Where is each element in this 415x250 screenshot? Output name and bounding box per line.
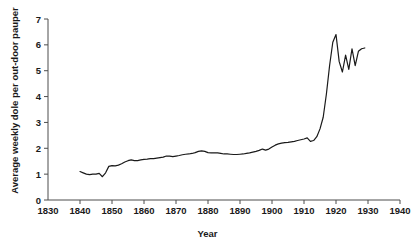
x-tick-label: 1860 (133, 205, 154, 216)
x-tick-label: 1880 (197, 205, 218, 216)
y-tick-label: 0 (36, 195, 41, 206)
y-tick-label: 6 (36, 39, 41, 50)
y-tick-group: 01234567 (36, 14, 48, 206)
x-tick-label: 1850 (101, 205, 122, 216)
x-tick-label: 1890 (229, 205, 250, 216)
axes (48, 19, 400, 200)
x-tick-label: 1910 (293, 205, 314, 216)
x-tick-label: 1930 (357, 205, 378, 216)
x-tick-label: 1940 (389, 205, 410, 216)
y-tick-label: 7 (36, 14, 41, 25)
x-tick-label: 1900 (261, 205, 282, 216)
x-tick-group: 1830184018501860187018801890190019101920… (37, 200, 410, 216)
x-tick-label: 1870 (165, 205, 186, 216)
y-tick-label: 2 (36, 143, 41, 154)
chart-figure: Average weekly dole per out-door pauper … (0, 0, 415, 250)
x-axis-label: Year (0, 228, 415, 239)
x-tick-label: 1830 (37, 205, 58, 216)
y-tick-label: 1 (36, 169, 42, 180)
y-tick-label: 5 (36, 65, 42, 76)
x-tick-label: 1920 (325, 205, 346, 216)
plot-area: 01234567 1830184018501860187018801890190… (0, 0, 415, 250)
x-tick-label: 1840 (69, 205, 90, 216)
data-series-group (80, 35, 365, 177)
y-tick-label: 4 (36, 91, 42, 102)
y-tick-label: 3 (36, 117, 41, 128)
data-line (80, 35, 365, 177)
